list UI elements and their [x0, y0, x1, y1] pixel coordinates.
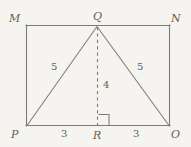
measure-label-PR: 3: [61, 129, 67, 139]
measure-label-RO: 3: [133, 129, 139, 139]
vertex-label-Q: Q: [93, 11, 102, 22]
triangle-side-QO: [97, 27, 169, 126]
measure-label-PQ: 5: [51, 62, 57, 72]
right-angle-marker: [99, 115, 110, 126]
triangle-side-PQ: [27, 27, 97, 126]
measure-label-QO: 5: [137, 62, 143, 72]
vertex-label-M: M: [9, 13, 20, 24]
geometry-figure: M Q N P R O 5 5 4 3 3: [0, 0, 191, 147]
vertex-label-P: P: [11, 129, 18, 140]
measure-label-QR: 4: [103, 80, 109, 90]
vertex-label-N: N: [171, 13, 181, 24]
vertex-label-O: O: [171, 129, 180, 140]
vertex-label-R: R: [93, 130, 101, 141]
